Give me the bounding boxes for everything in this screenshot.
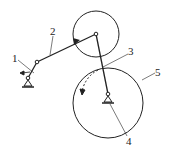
label-3: 3	[128, 45, 134, 57]
crank-1	[28, 62, 37, 78]
ground-support-1	[24, 80, 32, 86]
mechanism-diagram: 1 2 3 5 4	[0, 0, 170, 147]
joint-crank-link	[35, 60, 39, 64]
link-3	[96, 34, 108, 94]
ground-support-4	[104, 96, 112, 102]
label-2: 2	[50, 25, 56, 37]
label-4: 4	[126, 135, 132, 147]
label-5: 5	[155, 66, 161, 78]
label-1: 1	[12, 52, 18, 64]
joint-wheel-center	[94, 32, 98, 36]
link-2	[37, 34, 96, 62]
